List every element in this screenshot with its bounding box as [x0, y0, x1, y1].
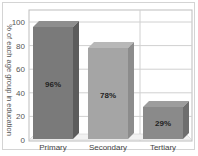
bar-chart: 0 20 40 60 80 100 % of each age group in…: [0, 0, 198, 156]
value-label: 96%: [45, 80, 61, 89]
y-tick: 60: [16, 65, 25, 74]
bar-primary: 96%: [33, 21, 79, 139]
value-label: 78%: [100, 91, 116, 100]
x-category-label: Primary: [39, 143, 67, 152]
x-category-label: Tertiary: [150, 143, 176, 152]
y-tick: 0: [21, 136, 26, 145]
value-label: 29%: [155, 119, 171, 128]
x-category-label: Secondary: [89, 143, 127, 152]
x-axis: Primary Secondary Tertiary: [39, 143, 176, 152]
bar-secondary: 78%: [88, 42, 134, 139]
y-tick: 40: [16, 89, 25, 98]
y-tick: 20: [16, 112, 25, 121]
bar-tertiary: 29%: [143, 101, 189, 139]
y-axis-label: % of each age group in education: [5, 24, 14, 136]
y-tick: 80: [16, 42, 25, 51]
